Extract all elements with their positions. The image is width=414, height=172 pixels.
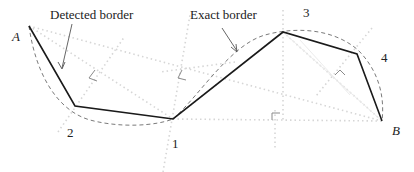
right-angle-icon [178,70,186,80]
chord-a-1 [29,26,173,119]
detected-arrow-icon [62,24,72,68]
vertex-1-label: 1 [172,136,179,151]
exact-arrow-icon [222,28,237,51]
border-diagram: Detected border Exact border A B 1 2 3 4 [0,0,414,172]
detected-border-label: Detected border [50,7,134,22]
perp-a3 [160,62,235,72]
vertex-3-label: 3 [303,5,310,20]
right-angle-icon [335,70,345,75]
chord-1-b [173,119,382,121]
vertex-2-label: 2 [67,125,74,140]
exact-border-label: Exact border [190,7,257,22]
right-angle-icon [89,70,97,81]
point-a-label: A [11,29,20,44]
point-b-label: B [392,123,400,138]
right-angle-icon [272,113,280,120]
annotation-arrows [58,24,237,69]
construction-faint [75,32,382,121]
vertex-4-label: 4 [381,50,388,65]
